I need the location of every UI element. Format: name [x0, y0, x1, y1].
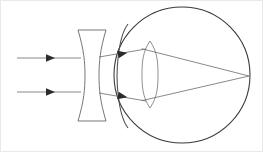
lower-diverged-ray-arrowhead: [117, 92, 127, 99]
eyeball-outline: [114, 7, 250, 143]
concave-lens-outline: [78, 30, 106, 121]
upper-diverged-ray-arrowhead: [117, 51, 127, 58]
optics-diagram-svg: [0, 0, 263, 152]
lower-incident-ray-arrowhead: [46, 88, 55, 96]
cornea-arc: [117, 24, 128, 128]
upper-incident-ray-arrowhead: [46, 54, 55, 62]
optics-diagram-canvas: [0, 0, 263, 152]
